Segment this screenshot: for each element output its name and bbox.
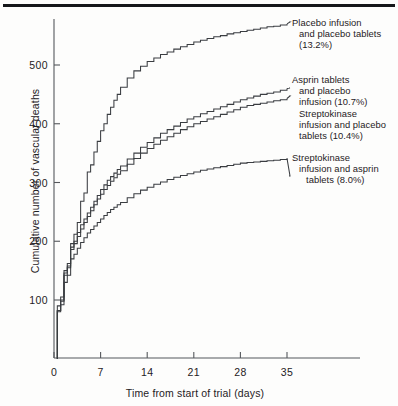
series-curve-asprin-tablets-and-placebo-infusion-10-7 <box>57 89 287 359</box>
leader-streptokinase-placebo <box>287 96 290 98</box>
x-tick-label-7: 7 <box>90 366 112 378</box>
legend-aspirin-line-2: and placebo <box>292 85 398 96</box>
figure-panel: 100200300400500 0714212835 Cumulative nu… <box>0 0 398 406</box>
series-curves-group <box>57 24 287 359</box>
legend-placebo-line-1: Placebo infusion <box>292 17 398 28</box>
x-tick-label-21: 21 <box>183 366 205 378</box>
legend-annotation-combined: Streptokinase infusion and asprin tablet… <box>292 152 398 186</box>
series-curve-placebo-infusion-and-placebo-tablets-13-2 <box>57 24 287 359</box>
tick-marks-group <box>54 65 287 358</box>
leader-placebo <box>287 22 290 24</box>
x-tick-label-35: 35 <box>276 366 298 378</box>
legend-annotation-aspirin-and-streptokinase: Asprin tablets and placebo infusion (10.… <box>292 74 398 141</box>
axes-group <box>54 19 360 358</box>
legend-placebo-line-3: (13.2%) <box>292 39 398 50</box>
legend-combined-line-2: infusion and asprin <box>292 163 398 174</box>
legend-placebo-line-2: and placebo tablets <box>292 28 398 39</box>
legend-aspirin-line-3: infusion (10.7%) <box>292 96 398 107</box>
legend-combined-line-1: Streptokinase <box>292 152 398 163</box>
legend-annotation-placebo: Placebo infusion and placebo tablets (13… <box>292 17 398 51</box>
series-curve-streptokinase-infusion-and-placebo-tablets-10- <box>57 98 287 358</box>
series-curve-streptokinase-infusion-and-asprin-tablets-8-0 <box>57 158 287 358</box>
leader-combined <box>287 158 290 176</box>
y-axis-title: Cumulative number of vascular deaths <box>29 66 41 296</box>
legend-combined-line-3: tablets (8.0%) <box>292 174 398 185</box>
legend-aspirin-line-6: tablets (10.4%) <box>292 130 398 141</box>
x-tick-label-0: 0 <box>43 366 65 378</box>
legend-aspirin-line-1: Asprin tablets <box>292 74 398 85</box>
x-tick-label-28: 28 <box>229 366 251 378</box>
chart-plot-area <box>0 0 398 406</box>
legend-aspirin-line-5: infusion and placebo <box>292 119 398 130</box>
legend-aspirin-line-4: Streptokinase <box>292 108 398 119</box>
x-axis-title: Time from start of trial (days) <box>40 387 350 399</box>
leader-aspirin <box>287 88 290 89</box>
x-tick-label-14: 14 <box>136 366 158 378</box>
